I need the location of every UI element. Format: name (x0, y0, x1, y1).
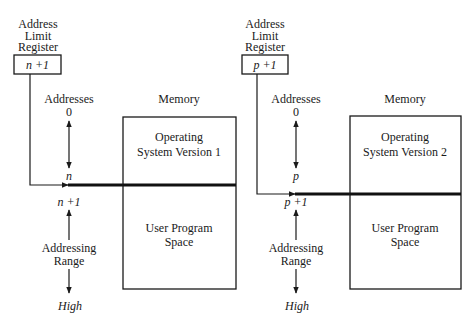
register-value: n +1 (26, 58, 49, 72)
addressing-range-label: Addressing (269, 241, 324, 255)
address-after-boundary: p +1 (283, 195, 307, 209)
address-start: 0 (293, 105, 299, 119)
addresses-label: Addresses (271, 92, 321, 106)
os-region-label: Operating (381, 130, 429, 144)
os-region-label: System Version 1 (137, 145, 221, 159)
address-start: 0 (66, 105, 72, 119)
user-region-label: Space (165, 235, 194, 249)
address-end: High (57, 299, 82, 313)
addressing-range-label: Addressing (42, 241, 97, 255)
register-title-line: Register (18, 40, 58, 54)
diagram-version-1: Address Limit Register n +1 Addresses 0 … (14, 17, 236, 313)
memory-title: Memory (158, 92, 199, 106)
register-title-line: Register (245, 40, 285, 54)
address-after-boundary: n +1 (57, 195, 80, 209)
limit-pointer-line (30, 74, 68, 185)
address-boundary: p (292, 169, 299, 183)
address-end: High (284, 299, 309, 313)
address-boundary: n (66, 169, 72, 183)
addressing-range-label: Range (54, 254, 85, 268)
diagram-version-2: Address Limit Register p +1 Addresses 0 … (242, 17, 461, 313)
os-region-label: System Version 2 (363, 145, 447, 159)
register-value: p +1 (252, 58, 276, 72)
user-region-label: Space (391, 235, 420, 249)
user-region-label: User Program (372, 221, 440, 235)
address-limit-register-diagram: Address Limit Register n +1 Addresses 0 … (0, 0, 473, 324)
register-title: Address Limit Register (245, 17, 285, 54)
register-title: Address Limit Register (18, 17, 58, 54)
memory-title: Memory (384, 92, 425, 106)
addressing-range-label: Range (281, 254, 312, 268)
os-region-label: Operating (155, 130, 203, 144)
user-region-label: User Program (146, 221, 214, 235)
addresses-label: Addresses (44, 92, 94, 106)
